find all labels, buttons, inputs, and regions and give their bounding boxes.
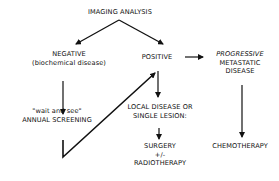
imaging-analysis-flowchart: IMAGING ANALYSIS NEGATIVE (biochemical d… [0,0,279,181]
node-label: POSITIVE [142,53,173,62]
node-label: SURGERY [134,142,186,151]
node-label: DISEASE [216,67,263,76]
node-label: PROGRESSIVE [216,50,263,59]
node-label: RADIOTHERAPY [134,159,186,168]
node-label: METASTATIC [216,59,263,68]
node-label: +/- [134,151,186,160]
node-label: "wait and see" [22,107,92,116]
node-chemotherapy: CHEMOTHERAPY [212,142,268,151]
edge-root-negative [76,20,119,44]
node-label: LOCAL DISEASE OR [127,103,192,112]
node-wait-and-see: "wait and see" ANNUAL SCREENING [22,107,92,124]
node-progressive-metastatic-disease: PROGRESSIVE METASTATIC DISEASE [216,50,263,76]
node-local-disease: LOCAL DISEASE OR SINGLE LESION: [127,103,192,120]
node-sublabel: (biochemical disease) [32,59,106,68]
node-label: IMAGING ANALYSIS [88,8,152,17]
node-label: SINGLE LESION: [127,112,192,121]
node-surgery-radiotherapy: SURGERY +/- RADIOTHERAPY [134,142,186,168]
edge-root-positive [119,20,163,44]
node-label: ANNUAL SCREENING [22,116,92,125]
node-negative: NEGATIVE (biochemical disease) [32,50,106,67]
node-imaging-analysis: IMAGING ANALYSIS [88,8,152,17]
node-label: CHEMOTHERAPY [212,142,268,151]
node-positive: POSITIVE [142,53,173,62]
node-label: NEGATIVE [32,50,106,59]
